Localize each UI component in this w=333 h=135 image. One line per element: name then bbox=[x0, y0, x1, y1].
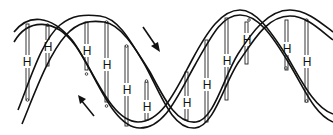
h-label: H bbox=[44, 40, 53, 54]
base-pair: H bbox=[141, 80, 151, 120]
h-label: H bbox=[203, 78, 212, 92]
base-pair: H bbox=[42, 24, 52, 66]
h-label: H bbox=[83, 44, 92, 58]
h-label: H bbox=[23, 55, 32, 69]
arrow-up-left bbox=[78, 95, 94, 116]
base-pair: H bbox=[22, 24, 32, 101]
dna-helix-diagram: H H H H bbox=[0, 0, 333, 135]
h-label: H bbox=[143, 100, 152, 114]
h-label: H bbox=[223, 54, 232, 68]
h-label: H bbox=[103, 58, 112, 72]
h-label: H bbox=[183, 96, 192, 110]
h-label: H bbox=[123, 83, 132, 97]
h-label: H bbox=[303, 55, 312, 69]
base-pair: H bbox=[121, 45, 131, 126]
base-pair: H bbox=[81, 22, 91, 75]
helix-svg: H H H H bbox=[0, 0, 333, 135]
arrow-down-right bbox=[143, 27, 160, 52]
